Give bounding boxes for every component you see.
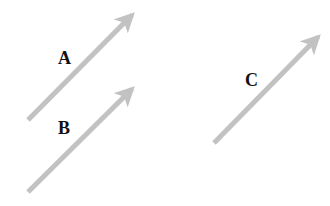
label-a: A [58,49,71,67]
arrows-layer [0,0,330,206]
label-b: B [58,119,70,137]
vector-diagram: A B C [0,0,330,206]
label-c: C [245,71,258,89]
arrow-c-icon [214,37,318,143]
